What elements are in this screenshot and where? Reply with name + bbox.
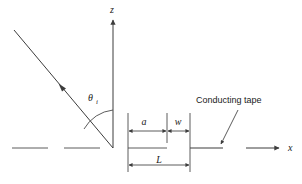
angle-subscript: i	[96, 98, 98, 106]
z-axis-label: z	[109, 4, 114, 15]
incidence-angle-group: θ i	[84, 92, 113, 129]
dimension-a-group: a	[129, 116, 166, 131]
dimension-w-label: w	[175, 116, 182, 127]
conducting-tape-callout-group: Conducting tape	[196, 95, 262, 144]
conducting-tape-leader-line	[221, 110, 238, 144]
dimension-a-label: a	[142, 116, 147, 127]
figure-container: z x θ i	[0, 0, 302, 184]
dimension-L-group: L	[129, 154, 189, 165]
incident-ray-group	[14, 30, 113, 148]
x-axis-group: x	[12, 142, 293, 153]
conducting-tape-label: Conducting tape	[196, 95, 262, 105]
angle-symbol: θ	[88, 92, 93, 103]
z-axis-group: z	[109, 4, 114, 148]
angle-arc	[84, 110, 113, 129]
dimension-L-label: L	[155, 154, 162, 165]
dimension-w-group: w	[168, 116, 189, 131]
diagram-canvas: z x θ i	[0, 0, 302, 184]
x-axis-label: x	[287, 142, 293, 153]
